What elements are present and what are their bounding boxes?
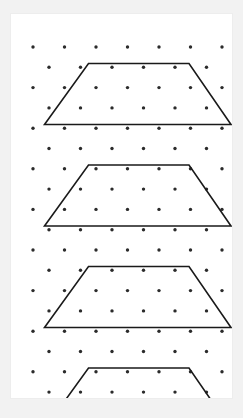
grid-dot <box>173 309 176 312</box>
grid-dot <box>31 45 34 48</box>
grid-dot <box>205 269 208 272</box>
grid-dot <box>110 66 113 69</box>
grid-dot <box>157 330 160 333</box>
grid-dot <box>47 187 50 190</box>
grid-dot <box>126 127 129 130</box>
grid-dot <box>63 167 66 170</box>
grid-dot <box>142 228 145 231</box>
grid-dot <box>79 187 82 190</box>
grid-dot <box>173 390 176 393</box>
grid-dot <box>189 208 192 211</box>
grid-dot <box>79 309 82 312</box>
figure-card <box>10 13 233 399</box>
grid-dot <box>157 248 160 251</box>
grid-dot <box>189 86 192 89</box>
grid-dot <box>142 350 145 353</box>
grid-dot <box>31 289 34 292</box>
dot-grid-layer <box>31 45 223 399</box>
grid-dot <box>79 147 82 150</box>
grid-dot <box>94 167 97 170</box>
grid-dot <box>31 127 34 130</box>
grid-dot <box>126 330 129 333</box>
grid-dot <box>63 86 66 89</box>
grid-dot <box>189 248 192 251</box>
grid-dot <box>157 370 160 373</box>
dot-grid-trapezoid-figure <box>11 14 233 399</box>
grid-dot <box>189 127 192 130</box>
grid-dot <box>157 45 160 48</box>
grid-dot <box>173 269 176 272</box>
grid-dot <box>31 86 34 89</box>
grid-dot <box>220 248 223 251</box>
grid-dot <box>205 106 208 109</box>
grid-dot <box>94 208 97 211</box>
grid-dot <box>79 350 82 353</box>
grid-dot <box>157 86 160 89</box>
grid-dot <box>126 248 129 251</box>
grid-dot <box>94 330 97 333</box>
grid-dot <box>142 147 145 150</box>
grid-dot <box>142 309 145 312</box>
grid-dot <box>63 248 66 251</box>
grid-dot <box>110 269 113 272</box>
trapezoid-shapes-layer <box>45 64 232 400</box>
grid-dot <box>94 45 97 48</box>
grid-dot <box>173 106 176 109</box>
trapezoid-1 <box>45 64 232 125</box>
grid-dot <box>79 228 82 231</box>
grid-dot <box>220 86 223 89</box>
grid-dot <box>220 45 223 48</box>
trapezoid-3 <box>45 267 232 328</box>
grid-dot <box>47 66 50 69</box>
grid-dot <box>110 187 113 190</box>
grid-dot <box>205 228 208 231</box>
grid-dot <box>142 66 145 69</box>
grid-dot <box>94 86 97 89</box>
grid-dot <box>94 289 97 292</box>
grid-dot <box>189 330 192 333</box>
grid-dot <box>110 106 113 109</box>
grid-dot <box>220 167 223 170</box>
grid-dot <box>47 350 50 353</box>
grid-dot <box>126 289 129 292</box>
grid-dot <box>47 106 50 109</box>
grid-dot <box>79 106 82 109</box>
grid-dot <box>220 289 223 292</box>
grid-dot <box>79 66 82 69</box>
grid-dot <box>110 309 113 312</box>
grid-dot <box>173 187 176 190</box>
grid-dot <box>31 370 34 373</box>
grid-dot <box>63 208 66 211</box>
grid-dot <box>142 106 145 109</box>
grid-dot <box>110 228 113 231</box>
trapezoid-4 <box>45 368 232 399</box>
grid-dot <box>31 248 34 251</box>
grid-dot <box>157 208 160 211</box>
grid-dot <box>126 45 129 48</box>
grid-dot <box>205 66 208 69</box>
grid-dot <box>173 350 176 353</box>
grid-dot <box>31 330 34 333</box>
grid-dot <box>142 269 145 272</box>
grid-dot <box>220 330 223 333</box>
grid-dot <box>63 45 66 48</box>
grid-dot <box>79 269 82 272</box>
grid-dot <box>63 330 66 333</box>
trapezoid-2 <box>45 165 232 226</box>
grid-dot <box>173 147 176 150</box>
grid-dot <box>142 390 145 393</box>
grid-dot <box>47 390 50 393</box>
grid-dot <box>173 66 176 69</box>
grid-dot <box>142 187 145 190</box>
grid-dot <box>126 208 129 211</box>
grid-dot <box>173 228 176 231</box>
grid-dot <box>205 147 208 150</box>
grid-dot <box>63 289 66 292</box>
grid-dot <box>63 370 66 373</box>
grid-dot <box>189 45 192 48</box>
page-root <box>0 0 243 418</box>
grid-dot <box>47 147 50 150</box>
grid-dot <box>31 208 34 211</box>
grid-dot <box>94 248 97 251</box>
grid-dot <box>47 228 50 231</box>
